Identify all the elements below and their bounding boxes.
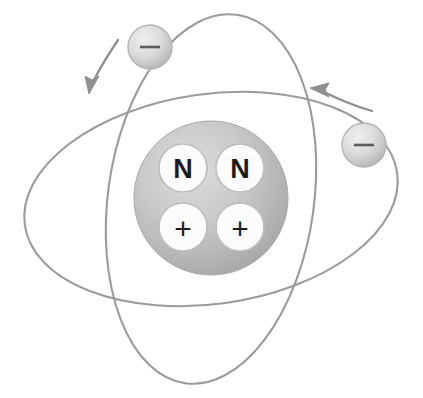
motion-arrow-left (85, 40, 118, 94)
arrow-head-icon (310, 83, 329, 97)
nucleus: N N + + (134, 121, 288, 275)
motion-arrow-left-shaft (94, 40, 118, 80)
neutron-1-label: N (173, 154, 193, 184)
electron-right (342, 123, 386, 167)
proton-1: + (159, 203, 207, 251)
proton-1-label: + (174, 212, 192, 245)
nucleus-disc (134, 121, 288, 275)
atom-diagram-canvas: N N + + (0, 0, 423, 398)
neutron-2: N (216, 144, 264, 192)
arrow-head-icon (85, 76, 99, 94)
neutron-2-label: N (230, 154, 250, 184)
neutron-1: N (159, 144, 207, 192)
atom-diagram: N N + + (0, 0, 423, 398)
proton-2: + (216, 203, 264, 251)
electron-top-left (128, 25, 172, 69)
proton-2-label: + (231, 212, 249, 245)
motion-arrow-right-shaft (324, 92, 372, 111)
motion-arrow-right (310, 83, 372, 111)
